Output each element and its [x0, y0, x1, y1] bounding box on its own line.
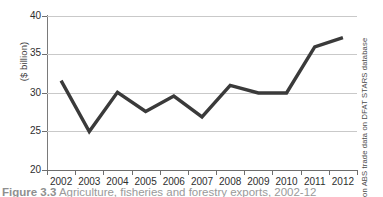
x-tickmark-1 — [75, 171, 76, 175]
x-tickmark-7 — [244, 171, 245, 175]
x-tickmark-10 — [329, 171, 330, 175]
x-tickmark-6 — [216, 171, 217, 175]
x-tickmark-0 — [47, 171, 48, 175]
y-tick-label-35: 35 — [17, 48, 41, 58]
figure-container: ($ billion) 40 35 30 25 20 2002200320042… — [0, 0, 383, 197]
x-axis-line — [47, 170, 358, 171]
x-tickmark-3 — [132, 171, 133, 175]
caption-text: Agriculture, fisheries and forestry expo… — [59, 186, 317, 197]
figure-caption: Figure 3.3 Agriculture, fisheries and fo… — [2, 186, 342, 197]
y-tick-label-20: 20 — [17, 165, 41, 175]
x-tickmark-4 — [160, 171, 161, 175]
series-line-chart — [47, 16, 357, 170]
y-axis-tick-labels: 40 35 30 25 20 — [17, 0, 41, 197]
caption-number: Figure 3.3 — [2, 186, 56, 197]
x-tickmark-5 — [188, 171, 189, 175]
x-tickmark-8 — [272, 171, 273, 175]
x-tickmark-9 — [301, 171, 302, 175]
y-tick-label-30: 30 — [17, 88, 41, 98]
plot-area — [47, 16, 357, 170]
y-tick-label-40: 40 — [17, 11, 41, 21]
source-note: Based on ABS trade data on DFAT STARS da… — [360, 0, 369, 197]
x-tickmark-2 — [103, 171, 104, 175]
series-line-agriculture-exports — [61, 38, 343, 132]
y-tick-label-25: 25 — [17, 126, 41, 136]
x-tickmark-11 — [357, 171, 358, 175]
